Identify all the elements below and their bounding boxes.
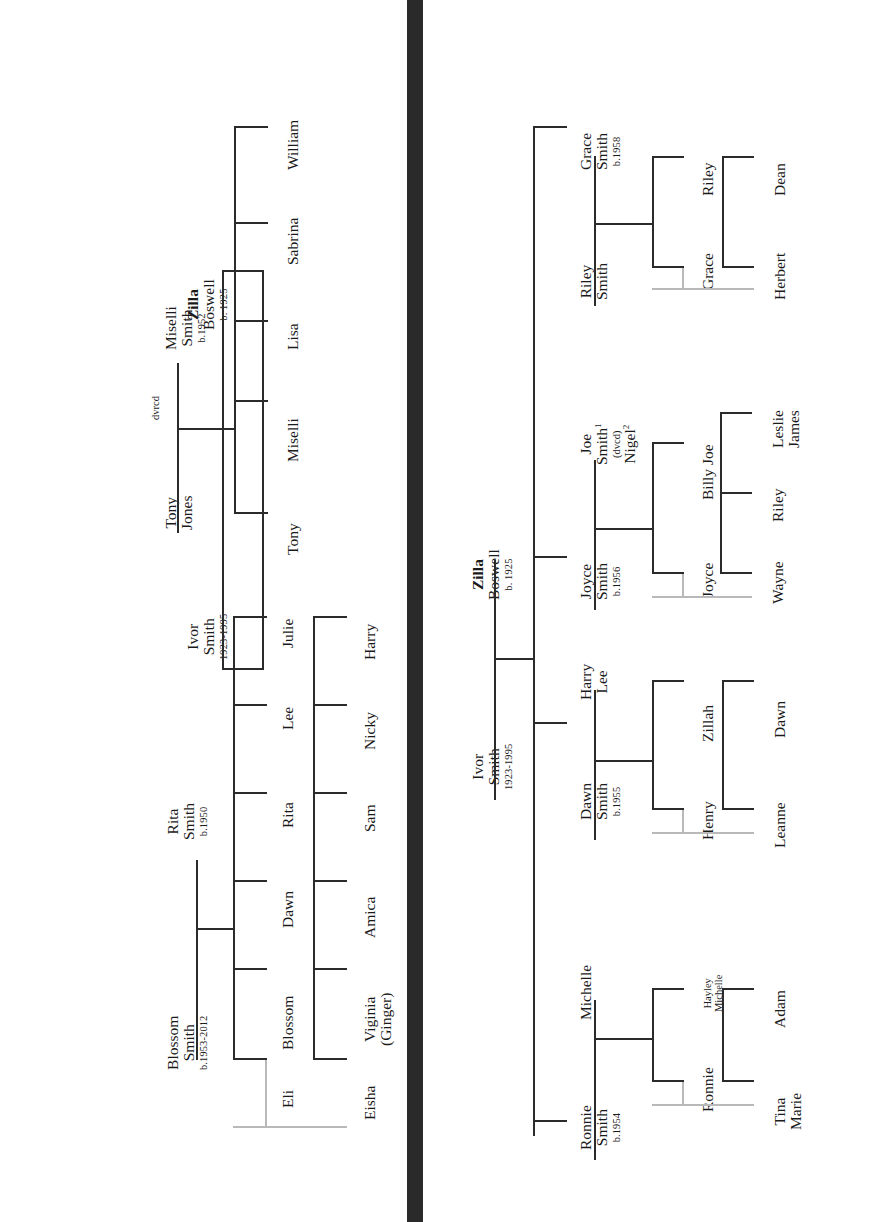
child-label-lee: Lee: [280, 707, 296, 730]
partner-link-eli-eisha-leg2: [265, 1126, 347, 1128]
sibling-branch-dawn: [533, 722, 567, 724]
child-tick-eisha: [313, 1058, 347, 1060]
child-tick-nicky: [313, 704, 347, 706]
child-tick-harry: [313, 616, 347, 618]
descent-stem-joyce-joe: [596, 528, 654, 530]
child-label-william: William: [285, 120, 301, 170]
child-tick-leanne: [722, 808, 754, 810]
descent-stem-dawn-harry: [596, 760, 654, 762]
child-tick-lee: [233, 704, 267, 706]
person-rita-smith: Rita Smith b.1950: [165, 803, 209, 840]
child-label-viginia: Viginia (Ginger): [362, 993, 395, 1046]
child-label-henry: Henry: [700, 801, 716, 840]
root-father-label-bottom: Ivor Smith 1923-1995: [470, 744, 514, 790]
partner-link-grace-herbert-leg2: [682, 288, 754, 290]
child-label-eisha: Eisha: [362, 1086, 378, 1120]
partner-link-henry-leanne-bar: [682, 810, 684, 834]
child-label-amica: Amica: [362, 897, 378, 938]
child-tick-adam: [722, 988, 754, 990]
root-marriage-line-top: [262, 270, 264, 670]
child-tick-hayley: [652, 988, 684, 990]
child-label-blossom: Blossom: [280, 996, 296, 1050]
child-tick-dean: [722, 156, 754, 158]
child-tick-julie: [233, 616, 267, 618]
child-tick-henry: [652, 808, 684, 810]
child-tick-sam: [313, 792, 347, 794]
child-label-sam: Sam: [362, 804, 378, 832]
child-tick-eli: [233, 1058, 267, 1060]
person-joe-smith: Joe Smith1 (dvcd) Nigel2: [578, 423, 639, 465]
child-label-nicky: Nicky: [362, 712, 378, 750]
child-tick-lisa: [234, 320, 268, 322]
sibling-spine-top: [222, 270, 224, 670]
child-label-zillah: Zillah: [700, 705, 716, 742]
children-spine-tina: [722, 988, 724, 1082]
partner-link-henry-leanne-leg2: [682, 832, 754, 834]
child-tick-zillah: [652, 680, 684, 682]
child-tick-tina: [722, 1080, 754, 1082]
partner-link-grace-herbert-bar: [682, 268, 684, 290]
child-label-tina-marie: Tina Marie: [772, 1093, 805, 1130]
marriage-line-dawn-harry: [594, 690, 596, 840]
child-label-tony: Tony: [285, 523, 301, 555]
child-label-dean: Dean: [772, 163, 788, 196]
person-joyce-smith: Joyce Smith b.1956: [578, 563, 622, 600]
child-tick-viginia: [313, 968, 347, 970]
partner-link-joyce-wayne-bar: [682, 574, 684, 598]
child-tick-tony: [234, 512, 268, 514]
person-tony-jones: Tony Jones: [163, 496, 196, 530]
child-tick-herbert: [722, 266, 754, 268]
person-dawn-smith: Dawn Smith b.1955: [578, 783, 622, 820]
child-tick-amica: [313, 880, 347, 882]
child-tick-wayne: [720, 572, 752, 574]
root-descent-stem-top: [222, 668, 264, 670]
child-label-adam: Adam: [772, 990, 788, 1028]
person-grace-smith: Grace Smith b.1958: [578, 133, 622, 170]
child-label-herbert: Herbert: [772, 253, 788, 300]
marriage-line-tony-miselli: [177, 363, 179, 533]
child-tick-blossom: [233, 968, 267, 970]
descent-stem-blossom-rita: [196, 928, 234, 930]
child-tick-dawn: [233, 880, 267, 882]
child-label-leanne: Leanne: [772, 802, 788, 848]
child-tick-riley-j: [720, 492, 752, 494]
family-tree-page: Ivor Smith 1923-1995 Zilla Boswell b. 19…: [0, 0, 874, 1222]
children-spine-dawn: [652, 680, 654, 810]
marriage-line-ronnie-michelle: [594, 1000, 596, 1160]
children-spine-herbert: [722, 156, 724, 268]
child-label-joyce-c: Joyce: [700, 563, 716, 598]
child-tick-dawn-d: [722, 680, 754, 682]
marriage-line-blossom-rita: [196, 860, 198, 1060]
child-tick-leslie: [720, 412, 752, 414]
descent-stem-ronnie-michelle: [596, 1038, 654, 1040]
child-label-hayley-michelle: Hayley Michelle: [702, 975, 724, 1012]
child-label-sabrina: Sabrina: [285, 218, 301, 265]
partner-link-joyce-wayne-leg1: [652, 596, 684, 598]
marriage-status-dvrcd: dvrcd: [150, 396, 161, 420]
marriage-line-grace-riley: [594, 156, 596, 306]
child-label-riley-j: Riley: [770, 488, 786, 522]
child-label-dawn-d: Dawn: [772, 701, 788, 738]
person-blossom-smith: Blossom Smith b.1953-2012: [165, 1016, 209, 1070]
sibling-spine-bottom: [533, 126, 535, 1136]
descent-stem-tony-miselli: [177, 428, 235, 430]
child-tick-william: [234, 126, 268, 128]
root-marriage-line-bottom: [494, 560, 496, 800]
partner-link-joyce-wayne-leg2: [682, 596, 752, 598]
child-tick-grace-g: [652, 266, 684, 268]
child-label-lisa: Lisa: [285, 323, 301, 350]
person-miselli-smith: Miselli Smith b.1952: [163, 306, 207, 350]
children-spine-blossom: [233, 616, 235, 1060]
child-tick-billyjoe: [652, 442, 684, 444]
person-ronnie-smith: Ronnie Smith b.1954: [578, 1105, 622, 1150]
root-mother-label-bottom: Zilla Boswell b. 1925: [470, 549, 514, 600]
root-descent-stem-bottom2: [496, 658, 534, 660]
partner-link-ronnie-tina-leg1: [652, 1104, 684, 1106]
children-spine-grace: [652, 156, 654, 268]
child-label-julie: Julie: [280, 619, 296, 648]
child-tick-joyce-c: [652, 572, 684, 574]
partner-link-ronnie-tina-bar: [682, 1082, 684, 1106]
children-spine-leanne: [722, 680, 724, 810]
sibling-branch-joyce: [533, 556, 567, 558]
partner-link-eli-eisha-bar: [265, 1060, 267, 1128]
